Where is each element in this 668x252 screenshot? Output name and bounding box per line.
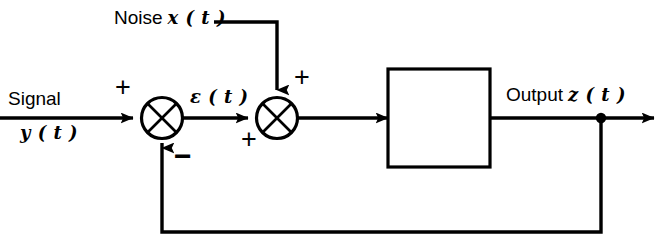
- error-label: ε ( t ): [190, 88, 249, 106]
- block-diagram-canvas: Noise x ( t ) Signal y ( t ) + − ε ( t )…: [0, 0, 668, 252]
- noise-label-word: Noise: [114, 8, 163, 27]
- output-label: Output z ( t ): [506, 85, 626, 104]
- summing-junction-1: [142, 98, 183, 139]
- signal-label-word: Signal: [8, 89, 61, 108]
- signal-label-variable: y ( t ): [20, 124, 78, 142]
- signal-plus-sign: +: [115, 74, 131, 101]
- diagram-vector-layer: [0, 0, 668, 252]
- noise-label: Noise x ( t ): [114, 8, 226, 27]
- summing-junction-2: [257, 98, 298, 139]
- output-label-word: Output: [506, 85, 563, 104]
- noise-input-line: [214, 22, 277, 90]
- feedback-line: [162, 118, 601, 232]
- noise-plus-sign: +: [294, 64, 310, 91]
- error-plus-sign: +: [241, 126, 257, 153]
- system-block: [388, 69, 490, 167]
- noise-label-variable: x ( t ): [168, 9, 226, 27]
- feedback-minus-sign: −: [174, 141, 192, 171]
- output-label-variable: z ( t ): [568, 86, 626, 104]
